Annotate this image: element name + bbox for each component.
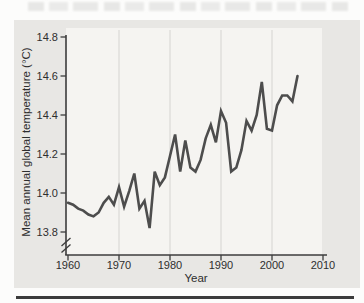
y-tick-label: 14.8 [37, 31, 58, 43]
y-tick-label: 13.8 [37, 226, 58, 238]
x-tick-label: 1990 [209, 259, 233, 271]
x-tick-label: 1980 [158, 259, 182, 271]
bottom-horizontal-rule [16, 296, 354, 299]
y-tick-label: 14.2 [37, 148, 58, 160]
plot-area [66, 28, 322, 255]
y-tick-label: 14.0 [37, 187, 58, 199]
x-axis-title: Year [184, 272, 207, 284]
y-tick-label: 14.4 [37, 109, 58, 121]
x-tick-label: 1970 [107, 259, 131, 271]
x-tick-label: 2000 [260, 259, 284, 271]
y-tick-label: 14.6 [37, 70, 58, 82]
x-tick-label: 1960 [56, 259, 80, 271]
temperature-line-chart: 19601970198019902000201013.814.014.214.4… [0, 0, 364, 303]
page: 19601970198019902000201013.814.014.214.4… [0, 0, 364, 303]
x-tick-label: 2010 [311, 259, 335, 271]
y-axis-title: Mean annual global temperature (°C) [20, 47, 32, 237]
